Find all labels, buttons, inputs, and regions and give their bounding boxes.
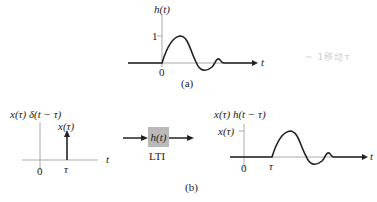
b-output-ylabel: x(τ) h(t − τ) (214, 109, 266, 120)
panel-b-output-plot (230, 124, 368, 168)
h-t-curve (128, 36, 252, 70)
b-output-tau-tick: τ (269, 161, 273, 172)
a-ylabel: h(t) (154, 4, 170, 15)
b-output-xlabel: t (370, 151, 373, 162)
b-input-origin-tick: 0 (37, 166, 43, 177)
diagram-canvas (0, 0, 377, 202)
a-y-tick-label: 1 (152, 31, 158, 42)
a-xlabel: t (261, 57, 264, 68)
panel-a-plot (128, 14, 258, 70)
b-caption: (b) (185, 182, 198, 193)
handwritten-note: ~ 1移动τ (305, 50, 351, 63)
b-input-xlabel: t (106, 154, 109, 165)
a-x-arrow-icon (252, 60, 258, 66)
lti-system-box: h(t) (148, 127, 169, 147)
impulse-label: x(τ) (58, 121, 74, 132)
b-input-tau-tick: τ (64, 164, 68, 175)
output-arrow-icon (187, 135, 194, 141)
lti-label: LTI (149, 151, 165, 162)
b-output-origin-tick: 0 (241, 163, 247, 174)
input-arrow-icon (141, 135, 148, 141)
a-x-tick-label: 0 (159, 67, 165, 78)
a-caption: (a) (181, 78, 193, 89)
b-output-y-tick: x(τ) (218, 126, 234, 137)
shifted-response-curve (230, 131, 364, 164)
b-input-ylabel: x(τ) δ(t − τ) (10, 109, 61, 120)
